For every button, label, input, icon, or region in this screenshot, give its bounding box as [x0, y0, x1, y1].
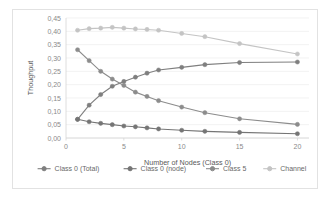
data-point-marker: [295, 52, 299, 56]
data-point-marker: [145, 94, 149, 98]
data-point-marker: [180, 65, 184, 69]
data-point-marker: [145, 71, 149, 75]
data-point-marker: [133, 75, 137, 79]
chart-container: 0,000,050,100,150,200,250,300,350,400,45…: [12, 9, 318, 189]
data-point-marker: [122, 83, 126, 87]
data-point-marker: [237, 60, 241, 64]
gridlines: [66, 18, 309, 138]
data-point-marker: [122, 26, 126, 30]
legend-marker-icon: [42, 167, 46, 171]
legend-label: Class 5: [223, 165, 246, 172]
data-point-marker: [295, 60, 299, 64]
data-point-marker: [237, 117, 241, 121]
x-tick-label: 15: [236, 143, 244, 150]
data-point-marker: [156, 127, 160, 131]
data-point-marker: [99, 92, 103, 96]
data-point-marker: [203, 129, 207, 133]
data-point-marker: [180, 31, 184, 35]
x-tick-label: 10: [178, 143, 186, 150]
data-point-marker: [156, 28, 160, 32]
legend-item-4[interactable]: Channel: [263, 165, 307, 172]
data-point-marker: [75, 48, 79, 52]
data-point-marker: [110, 77, 114, 81]
chart-legend: Class 0 (Total)Class 0 (node)Class 5Chan…: [38, 165, 307, 173]
data-point-marker: [99, 26, 103, 30]
series-3: [75, 48, 299, 127]
legend-item-2[interactable]: Class 0 (node): [124, 165, 187, 173]
data-point-marker: [75, 28, 79, 32]
y-axis-title: Thoughput: [26, 61, 35, 95]
data-point-marker: [237, 42, 241, 46]
y-tick-label: 0,35: [47, 41, 61, 48]
legend-marker-icon: [210, 167, 214, 171]
data-point-marker: [99, 69, 103, 73]
data-point-marker: [133, 27, 137, 31]
data-point-marker: [156, 99, 160, 103]
x-tick-label: 20: [294, 143, 302, 150]
y-tick-label: 0,20: [47, 81, 61, 88]
data-point-marker: [180, 105, 184, 109]
series-line: [78, 62, 298, 119]
data-point-marker: [122, 124, 126, 128]
data-point-marker: [295, 122, 299, 126]
data-point-marker: [180, 128, 184, 132]
legend-marker-icon: [128, 167, 132, 171]
legend-label: Class 0 (node): [141, 165, 187, 173]
data-point-marker: [203, 35, 207, 39]
x-tick-label: 0: [64, 143, 68, 150]
data-point-marker: [133, 125, 137, 129]
series-1: [75, 60, 299, 122]
data-point-marker: [75, 117, 79, 121]
data-point-marker: [133, 90, 137, 94]
data-point-marker: [145, 126, 149, 130]
data-point-marker: [87, 120, 91, 124]
data-point-marker: [203, 63, 207, 67]
legend-item-1[interactable]: Class 0 (Total): [38, 165, 100, 173]
data-point-marker: [87, 27, 91, 31]
legend-label: Channel: [280, 165, 307, 172]
series-layer: [75, 25, 299, 136]
y-tick-label: 0,40: [47, 28, 61, 35]
data-point-marker: [110, 25, 114, 29]
x-tick-label: 5: [122, 143, 126, 150]
legend-marker-icon: [268, 167, 272, 171]
y-tick-label: 0,25: [47, 68, 61, 75]
data-point-marker: [110, 84, 114, 88]
series-4: [75, 25, 299, 56]
y-tick-label: 0,30: [47, 55, 61, 62]
y-tick-label: 0,45: [47, 15, 61, 22]
data-point-marker: [237, 130, 241, 134]
data-point-marker: [122, 79, 126, 83]
y-tick-label: 0,10: [47, 108, 61, 115]
y-tick-label: 0,05: [47, 121, 61, 128]
data-point-marker: [145, 27, 149, 31]
data-point-marker: [295, 132, 299, 136]
data-point-marker: [156, 68, 160, 72]
y-axis-tick-labels: 0,000,050,100,150,200,250,300,350,400,45: [47, 15, 61, 142]
plot-area: 0,000,050,100,150,200,250,300,350,400,45…: [13, 10, 319, 190]
data-point-marker: [110, 123, 114, 127]
throughput-line-chart: 0,000,050,100,150,200,250,300,350,400,45…: [13, 10, 319, 190]
data-point-marker: [203, 111, 207, 115]
data-point-marker: [87, 59, 91, 63]
x-axis-tick-labels: 05101520: [64, 138, 301, 150]
data-point-marker: [99, 121, 103, 125]
data-point-marker: [87, 103, 91, 107]
legend-label: Class 0 (Total): [55, 165, 100, 173]
y-tick-label: 0,15: [47, 95, 61, 102]
series-2: [75, 117, 299, 136]
y-tick-label: 0,00: [47, 135, 61, 142]
axis-lines: [66, 18, 309, 138]
